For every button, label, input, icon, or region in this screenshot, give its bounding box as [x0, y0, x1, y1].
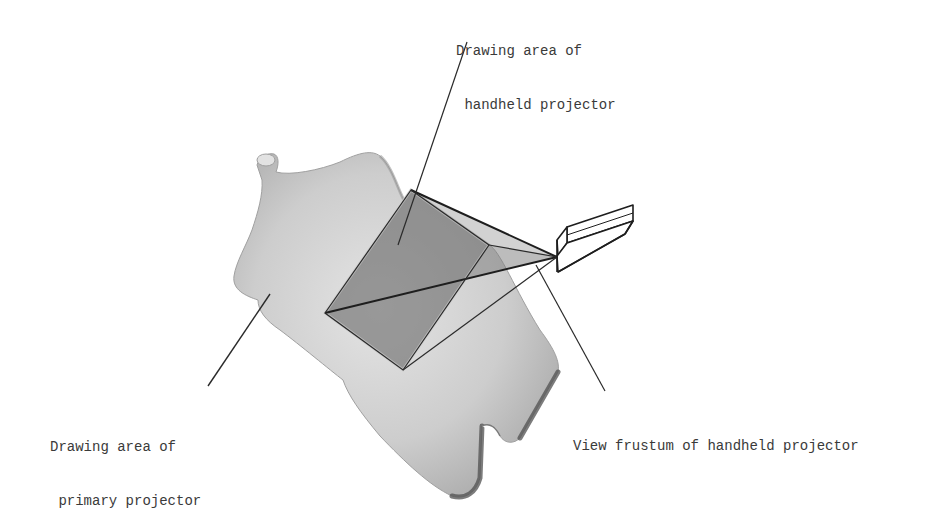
neck — [257, 154, 275, 166]
label-view-frustum: View frustum of handheld projector — [573, 401, 859, 491]
label-handheld-line2: handheld projector — [456, 96, 616, 114]
label-frustum-line1: View frustum of handheld projector — [573, 437, 859, 455]
label-primary-line1: Drawing area of — [50, 438, 201, 456]
label-primary-drawing-area: Drawing area of primary projector — [50, 402, 201, 531]
projector-figure: Drawing area of handheld projector Drawi… — [0, 0, 928, 531]
label-handheld-drawing-area: Drawing area of handheld projector — [456, 6, 616, 150]
label-handheld-line1: Drawing area of — [456, 42, 616, 60]
label-primary-line2: primary projector — [50, 492, 201, 510]
handheld-projector-icon — [557, 205, 633, 272]
leader-line-primary-area — [208, 294, 270, 386]
